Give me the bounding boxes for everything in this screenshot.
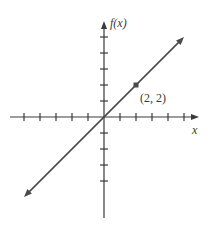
point-label: (2, 2)	[140, 92, 166, 104]
y-axis-label: f(x)	[110, 17, 127, 29]
data-points	[134, 83, 139, 88]
y-axis-arrow-icon	[101, 21, 107, 29]
data-point-marker	[134, 83, 139, 88]
x-axis-arrow-icon	[191, 114, 199, 120]
x-axis-label: x	[192, 124, 197, 136]
graph-canvas	[0, 0, 217, 230]
